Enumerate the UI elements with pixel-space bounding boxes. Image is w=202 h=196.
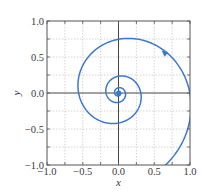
x-tick-label: −0.5 <box>73 166 92 177</box>
fixed-point-marker <box>116 91 121 96</box>
x-tick-label: 1.0 <box>183 166 196 177</box>
y-tick-label: 0.0 <box>31 88 44 99</box>
y-tick-label: 1.0 <box>31 16 44 27</box>
spiral-phase-plot: −1.0−0.50.00.51.0 −1.0−0.50.00.51.0 x y <box>0 0 202 196</box>
y-axis-label: y <box>10 90 22 96</box>
y-tick-label: −1.0 <box>25 160 44 171</box>
x-tick-label: 0.5 <box>148 166 161 177</box>
y-tick-labels: −1.0−0.50.00.51.0 <box>25 16 44 171</box>
y-tick-label: −0.5 <box>25 124 44 135</box>
y-tick-label: 0.5 <box>31 52 44 63</box>
x-axis-label: x <box>115 176 121 188</box>
